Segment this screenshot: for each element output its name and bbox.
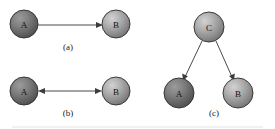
node-b-b[interactable]: B [102, 77, 130, 105]
edge-line [185, 41, 202, 77]
panel-caption-b: (b) [63, 108, 74, 118]
node-c-b[interactable]: B [223, 78, 253, 108]
arrow-head-start [38, 88, 45, 94]
node-b-a[interactable]: A [10, 77, 38, 105]
diagram-canvas: A B (a) A B (b) [0, 0, 275, 129]
node-label: B [235, 89, 241, 99]
figure-container: A B (a) A B (b) [0, 0, 275, 129]
panel-c: C A B (c) [164, 12, 253, 118]
node-a-b[interactable]: B [102, 10, 130, 38]
edge-c-cb [216, 41, 235, 81]
node-label: B [113, 87, 119, 97]
edge-b-ab [38, 88, 102, 94]
panel-caption-a: (a) [63, 42, 73, 52]
edge-c-ca [182, 41, 202, 81]
node-label: A [21, 87, 28, 97]
panel-b: A B (b) [10, 77, 130, 118]
edge-a-ab [38, 22, 103, 28]
node-label: A [21, 20, 28, 30]
panel-caption-c: (c) [209, 108, 219, 118]
node-label: B [113, 20, 119, 30]
arrow-head-end [95, 88, 102, 94]
node-label: C [206, 23, 212, 33]
node-c-a[interactable]: A [164, 78, 194, 108]
node-c-c[interactable]: C [194, 12, 224, 42]
edge-line [216, 41, 232, 77]
node-label: A [176, 89, 183, 99]
node-a-a[interactable]: A [10, 10, 38, 38]
panel-a: A B (a) [10, 10, 130, 52]
